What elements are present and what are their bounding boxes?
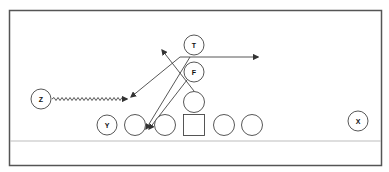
lineman-right-guard <box>214 115 235 136</box>
player-t: T <box>184 35 204 55</box>
svg-text:Y: Y <box>105 122 110 129</box>
lineman-center <box>184 115 205 136</box>
field-frame <box>10 11 382 166</box>
player-x: X <box>348 111 368 131</box>
lineman-left-guard <box>155 115 176 136</box>
play-diagram: T F Z Y X <box>0 0 389 172</box>
svg-text:T: T <box>192 42 197 49</box>
svg-text:F: F <box>192 69 197 76</box>
player-f: F <box>184 62 204 82</box>
player-qb <box>184 92 205 113</box>
svg-text:Z: Z <box>39 96 44 103</box>
player-z: Z <box>31 89 51 109</box>
player-y: Y <box>97 115 117 135</box>
lineman-right-tackle <box>242 115 263 136</box>
svg-text:X: X <box>356 118 361 125</box>
lineman-left-tackle <box>125 115 146 136</box>
